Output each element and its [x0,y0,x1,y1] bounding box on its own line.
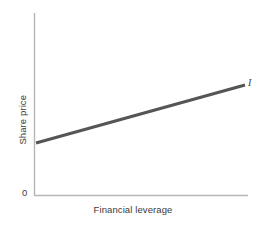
series-line-i [36,85,245,143]
chart-figure: Financial leverage Share price 0 I [0,0,266,232]
origin-label: 0 [22,188,27,198]
series-label-i: I [248,78,251,88]
y-axis-label: Share price [18,75,28,165]
y-axis-label-container: Share price [0,0,40,232]
